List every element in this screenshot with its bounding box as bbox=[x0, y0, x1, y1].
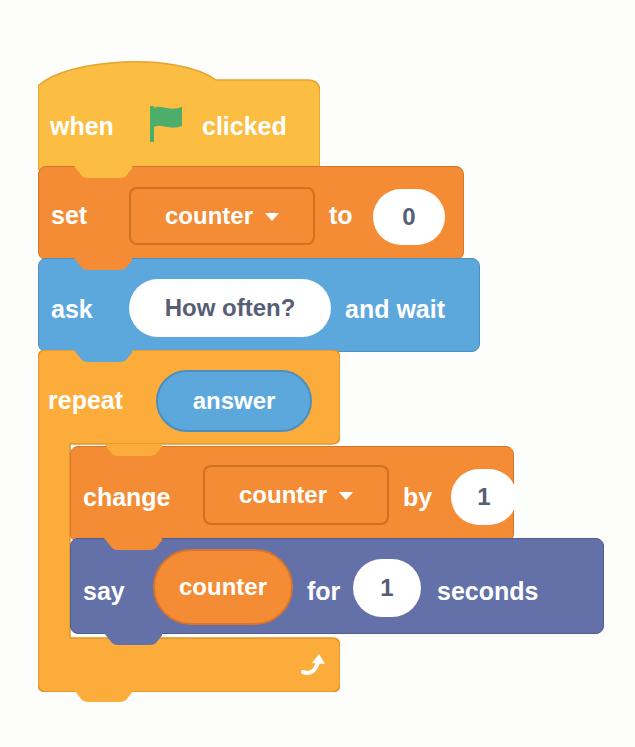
when-flag-clicked-block[interactable]: when clicked bbox=[38, 58, 320, 170]
change-label: change bbox=[83, 485, 171, 510]
dropdown-caret-icon bbox=[265, 213, 279, 221]
repeat-bottom-notch bbox=[74, 690, 132, 702]
loop-arrow-icon bbox=[300, 652, 328, 678]
ask-question-input[interactable]: How often? bbox=[129, 279, 331, 337]
hat-label-when: when bbox=[50, 114, 114, 139]
ask-label-and-wait: and wait bbox=[345, 297, 445, 322]
change-label-by: by bbox=[403, 485, 432, 510]
say-label-seconds: seconds bbox=[437, 579, 538, 604]
hat-label-clicked: clicked bbox=[202, 114, 287, 139]
set-value-input[interactable]: 0 bbox=[373, 189, 445, 245]
set-variable-block[interactable]: set counter to 0 bbox=[38, 166, 464, 260]
counter-reporter[interactable]: counter bbox=[153, 549, 293, 625]
set-label: set bbox=[51, 203, 87, 228]
variable-dropdown-counter[interactable]: counter bbox=[203, 465, 389, 525]
set-label-to: to bbox=[329, 203, 353, 228]
change-variable-block[interactable]: change counter by 1 bbox=[70, 446, 514, 542]
hat-notch bbox=[74, 166, 132, 178]
say-seconds-input[interactable]: 1 bbox=[353, 559, 421, 617]
ask-label: ask bbox=[51, 297, 93, 322]
ask-notch bbox=[74, 350, 132, 362]
change-notch bbox=[104, 538, 162, 550]
ask-and-wait-block[interactable]: ask How often? and wait bbox=[38, 258, 480, 352]
say-notch bbox=[104, 633, 162, 645]
dropdown-value: counter bbox=[239, 481, 327, 509]
change-value-input[interactable]: 1 bbox=[451, 469, 517, 525]
dropdown-caret-icon bbox=[339, 492, 353, 500]
repeat-inner-notch bbox=[104, 444, 162, 456]
say-label-for: for bbox=[307, 579, 340, 604]
say-for-seconds-block[interactable]: say counter for 1 seconds bbox=[70, 538, 604, 634]
set-notch bbox=[74, 258, 132, 270]
repeat-label: repeat bbox=[48, 388, 123, 413]
say-label: say bbox=[83, 579, 125, 604]
dropdown-value: counter bbox=[165, 202, 253, 230]
green-flag-icon bbox=[148, 104, 184, 144]
variable-dropdown-counter[interactable]: counter bbox=[129, 187, 315, 245]
answer-reporter[interactable]: answer bbox=[156, 370, 312, 432]
